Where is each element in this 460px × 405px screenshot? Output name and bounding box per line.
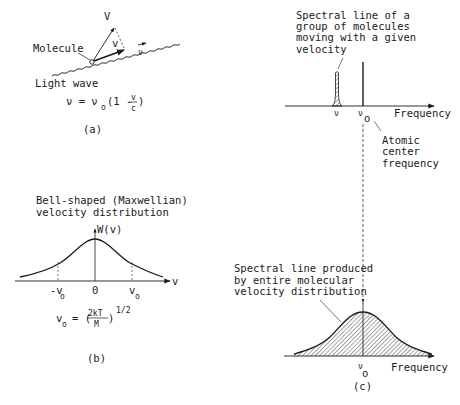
light-wave-arrow bbox=[138, 43, 146, 45]
svg-text:ν = ν: ν = ν bbox=[66, 95, 98, 107]
svg-text:): ) bbox=[108, 312, 114, 324]
svg-text:): ) bbox=[138, 95, 144, 107]
caption-b: (b) bbox=[87, 352, 106, 364]
svg-text:M: M bbox=[94, 320, 99, 329]
caption-c: (c) bbox=[353, 380, 372, 392]
velocity-component-label: v bbox=[112, 37, 118, 49]
top-frequency-label: Frequency bbox=[394, 107, 451, 119]
group-line-annotation-4: velocity bbox=[296, 43, 347, 55]
molecule-label: Molecule bbox=[33, 42, 84, 54]
panel-c-bottom: Spectral line produced by entire molecul… bbox=[234, 262, 448, 392]
velocity-vector-arrow bbox=[93, 28, 114, 61]
center-annotation-2: center bbox=[382, 145, 420, 157]
y-axis-label: W(v) bbox=[97, 223, 122, 235]
broad-line-leader bbox=[320, 300, 341, 322]
panel-b: Bell-shaped (Maxwellian) velocity distri… bbox=[15, 194, 188, 364]
tick-zero: 0 bbox=[92, 284, 98, 296]
svg-text:1/2: 1/2 bbox=[116, 306, 131, 315]
tick-neg-v0-sub: o bbox=[60, 292, 65, 301]
bottom-frequency-label: Frequency bbox=[391, 361, 448, 373]
panel-a: V v ν Molecule Light wave ν = ν o (1 - v… bbox=[33, 10, 180, 135]
group-line-leader bbox=[338, 58, 343, 69]
narrow-spectral-line bbox=[332, 72, 342, 107]
velocity-vector-label: V bbox=[104, 10, 111, 22]
broad-line-annotation-1: Spectral line produced bbox=[234, 262, 373, 274]
distribution-title-line2: velocity distribution bbox=[36, 206, 169, 218]
distribution-title-line1: Bell-shaped (Maxwellian) bbox=[36, 194, 188, 206]
bottom-tick-nu0-sub: o bbox=[362, 367, 368, 379]
molecule-leader bbox=[78, 53, 90, 60]
broad-line-annotation-3: velocity distribution bbox=[234, 285, 367, 297]
svg-text:c: c bbox=[131, 104, 136, 113]
tick-nu0-sub: o bbox=[364, 112, 370, 124]
maxwellian-curve bbox=[20, 239, 163, 277]
svg-text:2kT: 2kT bbox=[88, 309, 103, 318]
svg-text:(1 -: (1 - bbox=[107, 95, 132, 107]
light-wave-label: Light wave bbox=[35, 77, 98, 89]
doppler-formula: ν = ν o (1 - v c ) bbox=[66, 93, 144, 113]
tick-nu0: ν bbox=[358, 109, 363, 118]
panel-c-top: Spectral line of a group of molecules mo… bbox=[285, 9, 451, 169]
caption-a: (a) bbox=[83, 123, 102, 135]
tick-pos-v0-sub: o bbox=[135, 292, 140, 301]
x-axis-label: v bbox=[172, 275, 178, 287]
svg-text:o: o bbox=[62, 320, 67, 329]
center-annotation-3: frequency bbox=[382, 157, 439, 169]
center-annotation-leader bbox=[374, 121, 381, 131]
doppler-broadening-figure: V v ν Molecule Light wave ν = ν o (1 - v… bbox=[0, 0, 460, 405]
svg-text:v: v bbox=[131, 93, 136, 102]
wave-frequency-label: ν bbox=[138, 48, 143, 57]
tick-nu: ν bbox=[334, 109, 339, 118]
v0-formula: v o = ( 2kT M ) 1/2 bbox=[56, 306, 131, 329]
svg-text:o: o bbox=[101, 103, 106, 112]
group-line-annotation-3: moving with a given bbox=[296, 31, 416, 43]
